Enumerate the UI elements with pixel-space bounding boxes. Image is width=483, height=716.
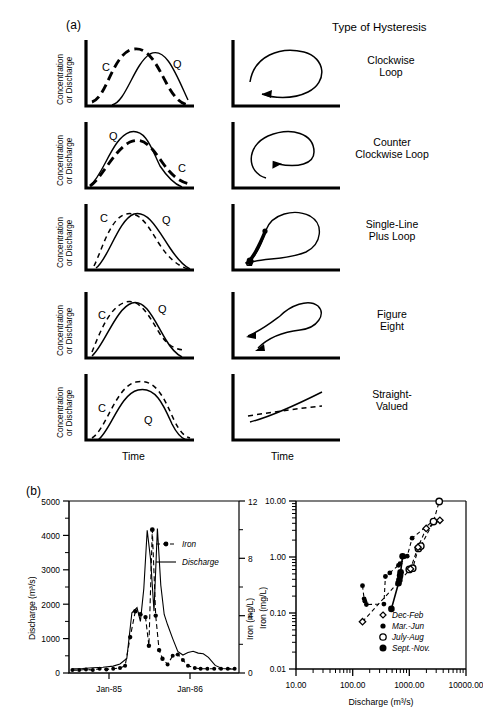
curve-label-q-row5: Q: [144, 414, 153, 426]
loop-diagram-row2: [228, 120, 344, 196]
legend-label-mar-jun: Mar.-Jun: [392, 622, 424, 631]
series-july-aug: [406, 498, 442, 572]
curve-label-q-row2: Q: [109, 130, 118, 142]
legend-marker-dec-feb: [380, 612, 386, 618]
xtick-jan85: Jan-85: [96, 684, 122, 694]
row-label-counter-clockwise-loop: CounterClockwise Loop: [330, 136, 454, 160]
y-axis-label-row5: Concentrationor Discharge: [56, 377, 75, 449]
xtick-1000: 1000.00: [394, 680, 425, 690]
series-mar-jun: [360, 518, 436, 607]
panel-b-tag: (b): [26, 484, 41, 498]
legend-label-july-aug: July-Aug: [391, 633, 424, 642]
svg-text:0: 0: [55, 668, 60, 678]
y-axis-ticks-scatter: 0.01 0.10 1.00 10.00: [265, 496, 296, 674]
curve-label-q-row4: Q: [158, 303, 167, 315]
timeseries-diagram-row5: C Q: [82, 372, 198, 448]
column-title-hysteresis: Type of Hysteresis: [332, 21, 427, 33]
y-axis-label-discharge: Discharge (m³/s): [27, 530, 37, 640]
curve-label-q-row3: Q: [162, 214, 171, 226]
curve-label-c-row4: C: [98, 309, 106, 321]
xtick-100: 100.00: [340, 680, 366, 690]
timeseries-diagram-row2: Q C: [82, 120, 198, 196]
y-axis-label-row2: Concentrationor Discharge: [56, 125, 75, 197]
timeseries-diagram-row4: C Q: [82, 290, 198, 366]
svg-text:1000: 1000: [41, 634, 60, 644]
xtick-jan86: Jan-86: [177, 684, 203, 694]
figure-root: (a) Type of Hysteresis Concentrationor D…: [0, 0, 483, 716]
y-axis-ticks-discharge: 0 1000 2000 3000 4000 5000: [41, 497, 69, 679]
panel-a-tag: (a): [66, 18, 81, 32]
svg-text:2000: 2000: [41, 600, 60, 610]
legend-marker-mar-jun: [380, 623, 385, 628]
row-label-figure-eight: FigureEight: [342, 308, 442, 332]
row-label-single-line-plus-loop: Single-LinePlus Loop: [334, 218, 450, 242]
curve-label-c-row1: C: [102, 61, 110, 73]
curve-label-c-row3: C: [100, 212, 108, 224]
row-label-clockwise-loop: ClockwiseLoop: [336, 54, 446, 78]
timeseries-diagram-row1: C Q: [82, 38, 198, 114]
legend-marker-july-aug: [380, 634, 386, 640]
legend-label-dec-feb: Dec-Feb: [392, 611, 424, 620]
ytick-010: 0.10: [270, 608, 287, 618]
axes-frame-timeseries: [69, 501, 239, 673]
timeseries-diagram-row3: C Q: [82, 202, 198, 278]
series-sept-nov: [388, 553, 406, 612]
xtick-10: 10.00: [286, 680, 307, 690]
row-label-straight-valued: Straight-Valued: [340, 388, 444, 412]
axes-frame-scatter: [296, 501, 466, 669]
loop-diagram-row3: [228, 202, 344, 278]
svg-text:4000: 4000: [41, 531, 60, 541]
chart-timeseries: 0 1000 2000 3000 4000 5000 0 4 8 12: [44, 496, 244, 706]
legend-label-iron: Iron: [182, 540, 197, 549]
x-axis-label-time-right: Time: [271, 450, 294, 462]
y-axis-label-row4: Concentrationor Discharge: [56, 295, 75, 367]
ytick-100: 1.00: [270, 552, 287, 562]
loop-diagram-row5: [228, 372, 344, 448]
legend-label-sept-nov: Sept.-Nov.: [392, 644, 430, 653]
legend-scatter: Dec-Feb Mar.-Jun July-Aug Sept.-Nov.: [380, 611, 431, 653]
ytick-1000: 10.00: [265, 496, 286, 506]
chart-hysteresis-loop: 0.01 0.10 1.00 10.00: [252, 496, 483, 706]
loop-diagram-row1: [228, 38, 344, 114]
curve-label-c-row2: C: [178, 162, 186, 174]
series-discharge: [72, 529, 235, 670]
curve-label-c-row5: C: [98, 402, 106, 414]
y-axis-label-row3: Concentrationor Discharge: [56, 207, 75, 279]
x-axis-label-time-left: Time: [122, 450, 145, 462]
x-axis-ticks-timeseries: Jan-85 Jan-86: [96, 673, 203, 694]
legend-label-discharge: Discharge: [182, 558, 219, 567]
svg-text:5000: 5000: [41, 497, 60, 507]
y-axis-label-row1: Concentrationor Discharge: [56, 44, 75, 116]
x-axis-ticks-scatter: 10.00 100.00 1000.00 10000.00: [286, 669, 483, 690]
ytick-001: 0.01: [270, 664, 287, 674]
loop-diagram-row4: [228, 290, 344, 366]
xtick-10000: 10000.00: [449, 680, 483, 690]
legend-marker-sept-nov: [380, 645, 387, 652]
legend-timeseries: Iron Discharge: [156, 540, 219, 567]
x-axis-label-discharge-scatter: Discharge (m³/s): [348, 697, 413, 707]
curve-label-q-row1: Q: [173, 58, 182, 70]
svg-text:3000: 3000: [41, 565, 60, 575]
